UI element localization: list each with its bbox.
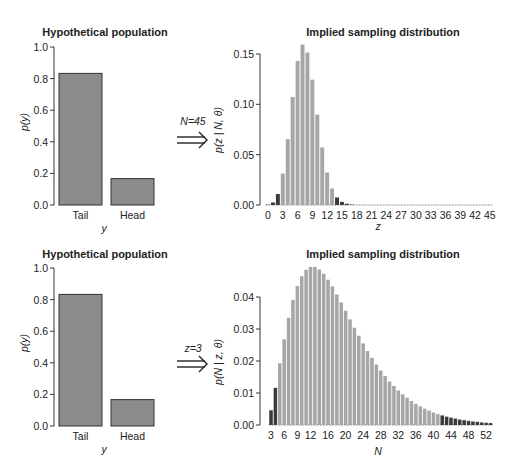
y-tick-label: 0.6: [33, 104, 48, 116]
bar: [335, 294, 339, 425]
tail-bar: [462, 420, 466, 425]
y-tick-label: 0.2: [33, 388, 48, 400]
x-axis-label: y: [100, 222, 107, 234]
x-tick-label: 6: [281, 429, 287, 441]
x-tick-label: 32: [392, 429, 404, 441]
y-axis-label: p(y): [18, 334, 30, 353]
y-tick-label: 0.4: [33, 136, 48, 148]
bar: [281, 174, 285, 205]
y-tick-label: 0.00: [234, 419, 255, 431]
bar: [291, 300, 295, 425]
bar-tail: [59, 294, 102, 426]
x-tick-label: Tail: [73, 430, 89, 442]
arrow-label: N=45: [180, 115, 206, 127]
bar: [286, 139, 290, 205]
x-tick-label: Head: [120, 209, 145, 221]
bar: [296, 286, 300, 425]
x-tick-label: 48: [463, 429, 475, 441]
bar: [361, 343, 365, 425]
figure-svg: Hypothetical population 0.00.20.40.60.81…: [0, 0, 513, 472]
bar: [331, 286, 335, 425]
tail-bar: [345, 204, 349, 205]
y-tick-label: 0.0: [33, 199, 48, 211]
tail-bar: [480, 422, 484, 425]
y-tick-label: 0.03: [234, 323, 255, 335]
x-tick-label: 16: [322, 429, 334, 441]
arrow-annotation-bottom: z=3: [177, 342, 207, 372]
bar: [282, 339, 286, 425]
panel-title: Implied sampling distribution: [306, 26, 460, 38]
x-axis-label: N: [374, 445, 382, 457]
y-tick-label: 1.0: [33, 262, 48, 274]
panel-title: Implied sampling distribution: [306, 248, 460, 260]
sampling-bars: 0.000.050.100.15036912151821242730333639…: [234, 45, 496, 221]
y-tick-label: 0.02: [234, 355, 255, 367]
tail-bar: [467, 421, 471, 425]
bar-head: [111, 179, 154, 205]
x-axis-label: z: [374, 220, 381, 232]
x-tick-label: 39: [454, 209, 466, 221]
x-tick-label: 3: [268, 429, 274, 441]
x-tick-label: 52: [480, 429, 492, 441]
bar: [287, 318, 291, 425]
bar-head: [111, 400, 154, 426]
bar: [330, 188, 334, 205]
double-arrow-icon: [177, 132, 207, 148]
y-tick-label: 0.10: [234, 98, 255, 110]
x-tick-label: 40: [428, 429, 440, 441]
bar: [436, 414, 440, 425]
x-tick-label: 36: [440, 209, 452, 221]
tail-bar: [476, 422, 480, 425]
bar: [301, 45, 305, 205]
x-tick-label: 36: [410, 429, 422, 441]
bar-tail: [59, 73, 102, 205]
tail-bar: [445, 417, 449, 425]
x-tick-label: 12: [321, 209, 333, 221]
tail-bar: [489, 423, 493, 425]
bar: [392, 386, 396, 425]
y-tick-label: 1.0: [33, 41, 48, 53]
bar: [322, 274, 326, 425]
arrow-label: z=3: [183, 342, 201, 354]
bar: [432, 413, 436, 425]
bar: [419, 406, 423, 425]
y-tick-label: 0.15: [234, 48, 255, 60]
x-tick-label: 42: [469, 209, 481, 221]
x-tick-label: 12: [305, 429, 317, 441]
tail-bar: [335, 197, 339, 205]
bar: [366, 351, 370, 425]
tail-bar: [471, 421, 475, 425]
tail-bar: [271, 202, 275, 205]
population-bars: 0.00.20.40.60.81.0TailHead: [33, 262, 154, 442]
tail-bar: [440, 415, 444, 425]
tail-bar: [458, 420, 462, 425]
bar: [325, 172, 329, 205]
x-tick-label: Head: [120, 430, 145, 442]
tail-bar: [274, 388, 278, 425]
population-bars: 0.00.20.40.60.81.0TailHead: [33, 41, 154, 221]
x-axis-label: y: [100, 443, 107, 455]
bar: [318, 269, 322, 425]
y-tick-label: 0.0: [33, 420, 48, 432]
x-tick-label: 24: [380, 209, 392, 221]
bar: [410, 401, 414, 425]
bar: [348, 319, 352, 425]
tail-bar: [484, 423, 488, 425]
x-tick-label: 27: [395, 209, 407, 221]
y-tick-label: 0.05: [234, 149, 255, 161]
bar: [353, 328, 357, 425]
x-tick-label: 28: [375, 429, 387, 441]
bar: [397, 390, 401, 425]
bar: [401, 394, 405, 425]
y-axis-label: p(y): [18, 113, 30, 132]
x-tick-label: 20: [340, 429, 352, 441]
tail-bar: [340, 202, 344, 205]
bar: [339, 302, 343, 425]
panel-title: Hypothetical population: [42, 26, 168, 38]
panel-title: Hypothetical population: [42, 248, 168, 260]
bar: [388, 381, 392, 425]
panel-top-right-sampling: Implied sampling distribution 0.000.050.…: [212, 26, 496, 232]
bar: [315, 115, 319, 205]
bar: [304, 270, 308, 425]
bar: [370, 358, 374, 425]
